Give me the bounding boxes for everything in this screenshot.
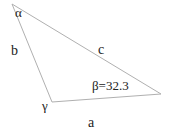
angle-alpha-label: α [15,5,22,20]
side-b-label: b [11,43,18,58]
angle-gamma-label: γ [41,98,48,113]
side-a-label: a [88,115,95,130]
triangle-shape [12,4,161,102]
triangle-diagram: α b c β=32.3 γ a [0,0,171,133]
side-c-label: c [98,42,104,57]
angle-beta-label: β=32.3 [92,78,129,93]
